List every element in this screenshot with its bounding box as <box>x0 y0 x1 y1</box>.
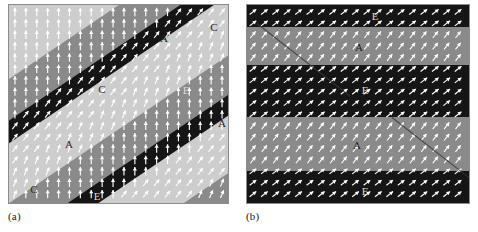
panel-b-domain-wall-lines <box>247 5 469 203</box>
panel-a-caption: (a) <box>8 210 21 222</box>
domain-wall-line-1 <box>392 117 470 201</box>
panel-b: EAEAE <box>246 4 470 204</box>
figure-root: CAECAACE EAEAE (a) (b) <box>0 0 478 232</box>
panel-a-domain-bands <box>9 5 228 203</box>
domain-wall-line-0 <box>257 23 351 96</box>
panel-b-caption: (b) <box>246 210 259 222</box>
panel-a: CAECAACE <box>8 4 229 204</box>
